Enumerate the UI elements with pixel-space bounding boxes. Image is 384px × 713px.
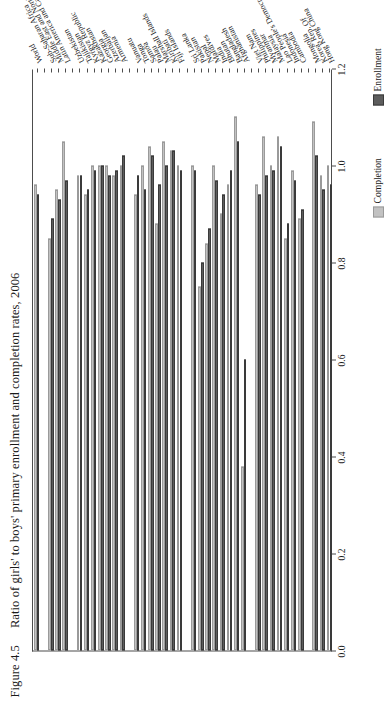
- legend-swatch-completion: [373, 206, 384, 217]
- bar-enrollment: [58, 199, 61, 650]
- axis-tick-label: 1.2: [337, 63, 347, 75]
- category-label: Azerbaijan: [98, 28, 122, 64]
- axis-tick: [332, 359, 336, 360]
- bar-enrollment: [258, 194, 261, 650]
- category-label: Kyrgyz Republic: [68, 10, 101, 64]
- bar-row: [197, 69, 204, 650]
- category-label: Hong Kong China: [302, 6, 337, 64]
- bar-row: [176, 69, 183, 650]
- plot-area: [32, 69, 332, 651]
- legend-label: Enrollment: [372, 48, 383, 91]
- category-label: World: [27, 42, 44, 64]
- bar-row: [54, 69, 61, 650]
- axis-tick-label: 0.2: [337, 548, 347, 560]
- bar-enrollment: [165, 165, 168, 650]
- bar-row-spacer: [247, 69, 254, 650]
- bar-row: [262, 69, 269, 650]
- bar-enrollment: [80, 175, 83, 650]
- category-label: Afghanistan: [225, 24, 251, 64]
- category-label: Uzbekistan: [62, 27, 87, 64]
- category-label: Nepal: [199, 43, 216, 65]
- category-label: Philippines: [248, 27, 273, 64]
- bar-row: [83, 69, 90, 650]
- value-axis: 0.00.20.40.60.81.01.2: [332, 69, 362, 651]
- bar-enrollment: [287, 223, 290, 650]
- bar-row-spacer: [183, 69, 190, 650]
- axis-tick-label: 0.0: [337, 645, 347, 657]
- bar-enrollment: [94, 170, 97, 650]
- bar-row-spacer: [69, 69, 76, 650]
- category-label: Middle East and North Africa: [13, 0, 65, 64]
- bar-enrollment: [101, 165, 104, 650]
- figure-caption: Ratio of girls' to boys' primary enrollm…: [8, 272, 22, 628]
- bar-row: [76, 69, 83, 650]
- bar-enrollment: [115, 170, 118, 650]
- bar-row-spacer: [304, 69, 311, 650]
- bar-enrollment: [108, 175, 111, 650]
- axis-tick-label: 1.0: [337, 160, 347, 172]
- bar-row: [219, 69, 226, 650]
- bar-enrollment: [201, 262, 204, 650]
- bar-row: [254, 69, 261, 650]
- category-label: Georgia: [96, 37, 116, 64]
- category-label: Indonesia: [279, 32, 301, 64]
- bar-enrollment: [222, 194, 225, 650]
- bar-enrollment: [194, 170, 197, 650]
- bar-enrollment: [301, 209, 304, 650]
- bar-row: [276, 69, 283, 650]
- category-label: Lao People's Democratic Republic: [234, 0, 294, 64]
- bar-row: [297, 69, 304, 650]
- bar-row: [190, 69, 197, 650]
- bar-row: [33, 69, 40, 650]
- bar-row: [233, 69, 240, 650]
- category-label: India: [214, 45, 230, 64]
- axis-tick-label: 0.4: [337, 451, 347, 463]
- bar-enrollment: [265, 175, 268, 650]
- bar-row: [312, 69, 319, 650]
- bar-enrollment: [144, 189, 147, 650]
- bar-row: [226, 69, 233, 650]
- category-label: Maldives: [201, 33, 223, 64]
- bar-row: [169, 69, 176, 650]
- category-label: Kazakhstan: [83, 26, 108, 64]
- legend-swatch-enrollment: [373, 94, 384, 105]
- category-label: Bhutan: [218, 39, 237, 64]
- bar-row: [147, 69, 154, 650]
- bar-enrollment: [87, 189, 90, 650]
- bar-enrollment: [51, 218, 54, 650]
- bar-row: [240, 69, 247, 650]
- bar-enrollment: [280, 146, 283, 650]
- bar-row: [212, 69, 219, 650]
- bar-enrollment: [315, 155, 318, 650]
- bar-enrollment: [215, 180, 218, 650]
- category-label: Pakistan: [188, 35, 209, 64]
- bar-row: [112, 69, 119, 650]
- category-label: Bangladesh: [219, 26, 244, 64]
- bar-enrollment: [244, 359, 247, 650]
- bar-enrollment: [180, 170, 183, 650]
- bar-row-spacer: [126, 69, 133, 650]
- bar-row: [154, 69, 161, 650]
- legend-label: Completion: [372, 158, 383, 203]
- bar-row: [269, 69, 276, 650]
- bar-row: [204, 69, 211, 650]
- category-label: Vanuatu: [124, 36, 144, 64]
- axis-tick-label: 0.6: [337, 354, 347, 366]
- bar-row: [90, 69, 97, 650]
- bar-enrollment: [65, 180, 68, 650]
- bar-row: [290, 69, 297, 650]
- bar-enrollment: [230, 170, 233, 650]
- bar-row: [140, 69, 147, 650]
- category-label: Sri Lanka: [179, 31, 202, 64]
- category-label: Samoa: [140, 40, 158, 64]
- bar-enrollment: [158, 184, 161, 650]
- category-label: Fiji Islands: [162, 27, 187, 64]
- category-label: Tonga: [134, 42, 151, 64]
- bar-enrollment: [294, 180, 297, 650]
- category-label: Korea, Rep. Of: [299, 15, 330, 64]
- bar-row: [97, 69, 104, 650]
- bar-enrollment: [172, 150, 175, 650]
- bar-enrollment: [137, 175, 140, 650]
- bar-row: [133, 69, 140, 650]
- category-label: Malaysia: [265, 33, 287, 64]
